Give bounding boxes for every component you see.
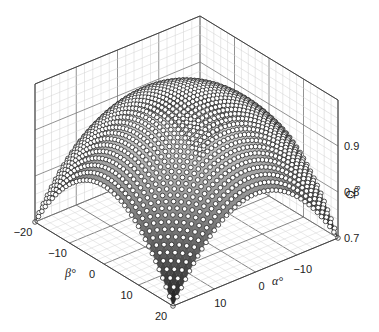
data-marker bbox=[200, 247, 205, 252]
data-marker bbox=[142, 190, 147, 195]
data-marker bbox=[194, 142, 199, 147]
data-marker bbox=[212, 161, 217, 166]
data-marker bbox=[214, 135, 219, 140]
data-marker bbox=[195, 125, 200, 130]
data-marker bbox=[173, 164, 178, 169]
data-marker bbox=[138, 186, 143, 191]
data-marker bbox=[175, 206, 180, 211]
data-marker bbox=[187, 269, 192, 274]
data-marker bbox=[154, 259, 159, 264]
data-marker bbox=[162, 170, 167, 175]
data-marker bbox=[197, 223, 202, 228]
data-marker bbox=[231, 175, 236, 180]
data-marker bbox=[165, 267, 170, 272]
data-marker bbox=[156, 213, 161, 218]
data-marker bbox=[227, 168, 232, 173]
data-marker bbox=[173, 175, 178, 180]
data-marker bbox=[215, 168, 220, 173]
data-marker bbox=[158, 165, 163, 170]
data-marker bbox=[169, 258, 174, 263]
data-marker bbox=[301, 181, 306, 186]
data-marker bbox=[212, 228, 217, 233]
data-marker bbox=[36, 214, 41, 219]
alpha-tick-label: 10 bbox=[214, 297, 226, 309]
data-marker bbox=[161, 181, 166, 186]
data-marker bbox=[324, 215, 329, 220]
data-marker bbox=[213, 152, 218, 157]
data-marker bbox=[268, 158, 273, 163]
data-marker bbox=[178, 213, 183, 218]
data-marker bbox=[180, 268, 185, 273]
data-marker bbox=[172, 187, 177, 192]
data-marker bbox=[149, 189, 154, 194]
data-marker bbox=[177, 169, 182, 174]
data-marker bbox=[155, 150, 160, 155]
data-marker bbox=[279, 146, 284, 151]
data-marker bbox=[217, 209, 222, 214]
data-marker bbox=[189, 222, 194, 227]
data-marker bbox=[164, 132, 169, 137]
data-marker bbox=[167, 294, 172, 299]
data-marker bbox=[242, 178, 247, 183]
data-marker bbox=[218, 100, 223, 105]
data-marker bbox=[304, 189, 309, 194]
data-marker bbox=[320, 210, 325, 215]
data-marker bbox=[211, 130, 216, 135]
data-marker bbox=[198, 209, 203, 214]
data-marker bbox=[137, 210, 142, 215]
data-marker bbox=[189, 236, 194, 241]
data-marker bbox=[168, 135, 173, 140]
data-marker bbox=[309, 188, 314, 193]
data-marker bbox=[160, 145, 165, 150]
data-marker bbox=[181, 235, 186, 240]
data-marker bbox=[173, 123, 178, 128]
data-marker bbox=[217, 141, 222, 146]
data-marker bbox=[208, 155, 213, 160]
data-marker bbox=[191, 137, 196, 142]
data-marker bbox=[171, 199, 176, 204]
data-marker bbox=[128, 173, 133, 178]
data-marker bbox=[286, 155, 291, 160]
data-marker bbox=[208, 234, 213, 239]
data-marker bbox=[237, 201, 242, 206]
data-marker bbox=[220, 218, 225, 223]
data-marker bbox=[169, 120, 174, 125]
data-marker bbox=[206, 187, 211, 192]
data-marker bbox=[180, 131, 185, 136]
data-marker bbox=[151, 156, 156, 161]
data-marker bbox=[127, 184, 132, 189]
data-marker bbox=[213, 214, 218, 219]
data-marker bbox=[162, 242, 167, 247]
data-marker bbox=[176, 276, 181, 281]
data-marker bbox=[208, 118, 213, 123]
data-marker bbox=[148, 214, 153, 219]
data-marker bbox=[312, 201, 317, 206]
data-marker bbox=[149, 143, 154, 148]
data-marker bbox=[195, 189, 200, 194]
data-marker bbox=[136, 170, 141, 175]
data-marker bbox=[199, 130, 204, 135]
data-marker bbox=[222, 182, 227, 187]
data-marker bbox=[163, 149, 168, 154]
data-marker bbox=[150, 251, 155, 256]
beta-tick-label: −20 bbox=[14, 226, 33, 238]
data-marker bbox=[199, 123, 204, 128]
data-marker bbox=[156, 200, 161, 205]
data-marker bbox=[217, 197, 222, 202]
data-marker bbox=[171, 149, 176, 154]
data-marker bbox=[177, 120, 182, 125]
data-marker bbox=[300, 185, 305, 190]
data-marker bbox=[167, 144, 172, 149]
data-marker bbox=[159, 220, 164, 225]
data-marker bbox=[209, 220, 214, 225]
data-marker bbox=[182, 154, 187, 159]
data-marker bbox=[179, 285, 184, 290]
data-marker bbox=[182, 145, 187, 150]
data-marker bbox=[151, 221, 156, 226]
data-marker bbox=[224, 213, 229, 218]
data-marker bbox=[151, 166, 156, 171]
data-marker bbox=[178, 149, 183, 154]
data-marker bbox=[205, 149, 210, 154]
data-marker bbox=[233, 205, 238, 210]
data-marker bbox=[175, 135, 180, 140]
